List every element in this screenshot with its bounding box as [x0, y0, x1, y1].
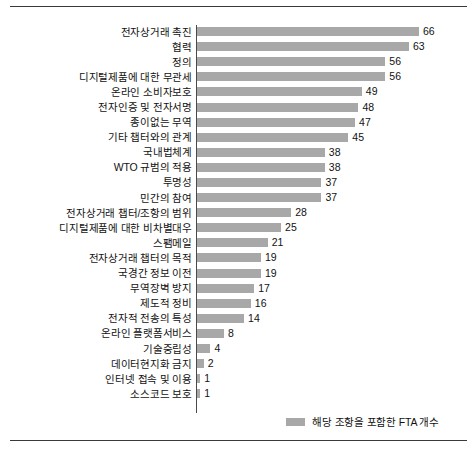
bar: [197, 389, 200, 398]
bar-with-value: 1: [197, 386, 210, 401]
bar-row: 전자인증 및 전자서명48: [0, 99, 475, 114]
bar: [197, 208, 291, 217]
bar-category-label: 기술중립성: [4, 343, 196, 355]
bar-value-label: 14: [248, 313, 260, 324]
bar-with-value: 8: [197, 326, 234, 341]
bar-row: 디지털제품에 대한 무관세56: [0, 69, 475, 84]
bar-row: 스팸메일21: [0, 235, 475, 250]
bar-value-label: 66: [423, 26, 435, 37]
bar-row: 종이없는 무역47: [0, 115, 475, 130]
bar-value-label: 45: [352, 132, 364, 143]
bar-value-label: 1: [204, 373, 210, 384]
bar-value-label: 63: [413, 41, 425, 52]
bar-rows-container: 전자상거래 촉진66협력63정의56디지털제품에 대한 무관세56온라인 소비자…: [0, 24, 475, 401]
bar-value-label: 28: [295, 207, 307, 218]
bar-value-label: 4: [214, 343, 220, 354]
bar-value-label: 49: [366, 86, 378, 97]
bar: [197, 299, 251, 308]
bar-row: 정의56: [0, 54, 475, 69]
bar-with-value: 49: [197, 84, 378, 99]
bar-value-label: 37: [325, 192, 337, 203]
bar: [197, 284, 254, 293]
bar-with-value: 19: [197, 266, 277, 281]
bar-with-value: 17: [197, 281, 270, 296]
bar-row: 디지털제품에 대한 비차별대우25: [0, 220, 475, 235]
bar: [197, 57, 385, 66]
bar: [197, 133, 348, 142]
bar-row: 전자상거래 챕터/조항의 범위28: [0, 205, 475, 220]
top-divider-rule: [10, 6, 467, 7]
bar: [197, 118, 355, 127]
bar: [197, 374, 200, 383]
bar-category-label: 정의: [4, 56, 196, 68]
bar-with-value: 48: [197, 99, 374, 114]
bar-row: 기술중립성4: [0, 341, 475, 356]
bar-with-value: 21: [197, 235, 283, 250]
bar: [197, 163, 325, 172]
bar-row: 소스코드 보호1: [0, 386, 475, 401]
bar-row: 협력63: [0, 39, 475, 54]
bar-with-value: 47: [197, 115, 371, 130]
bar-category-label: 전자인증 및 전자서명: [4, 101, 196, 113]
bar-row: 전자적 전송의 특성14: [0, 311, 475, 326]
bar-category-label: 디지털제품에 대한 무관세: [4, 71, 196, 83]
bar: [197, 253, 261, 262]
bar-with-value: 37: [197, 190, 337, 205]
bar-category-label: 스팸메일: [4, 237, 196, 249]
bar-with-value: 16: [197, 296, 267, 311]
bar-with-value: 37: [197, 175, 337, 190]
bar-category-label: WTO 규범의 적용: [4, 161, 196, 173]
bar-with-value: 28: [197, 205, 307, 220]
bar-category-label: 국내법체계: [4, 146, 196, 158]
bar-with-value: 25: [197, 220, 297, 235]
bar-value-label: 19: [265, 268, 277, 279]
bar-with-value: 14: [197, 311, 260, 326]
bar-with-value: 56: [197, 54, 401, 69]
bar-value-label: 21: [272, 237, 284, 248]
bar-category-label: 기타 챕터와의 관계: [4, 131, 196, 143]
bar: [197, 103, 358, 112]
bar-category-label: 디지털제품에 대한 비차별대우: [4, 222, 196, 234]
bar-category-label: 소스코드 보호: [4, 388, 196, 400]
bar: [197, 269, 261, 278]
bar-row: 제도적 정비16: [0, 296, 475, 311]
bar-row: 인터넷 접속 및 이용1: [0, 371, 475, 386]
bar-category-label: 전자적 전송의 특성: [4, 312, 196, 324]
bar-category-label: 전자상거래 촉진: [4, 26, 196, 38]
bar: [197, 72, 385, 81]
bar-value-label: 37: [325, 177, 337, 188]
legend-swatch-icon: [286, 418, 305, 426]
bar-category-label: 국경간 정보 이전: [4, 267, 196, 279]
bar: [197, 238, 268, 247]
bar-value-label: 25: [285, 222, 297, 233]
bar-category-label: 협력: [4, 41, 196, 53]
bar-row: 국경간 정보 이전19: [0, 266, 475, 281]
bar-value-label: 47: [359, 117, 371, 128]
bar: [197, 87, 362, 96]
bar-row: 민간의 참여37: [0, 190, 475, 205]
bar-category-label: 온라인 플랫폼서비스: [4, 327, 196, 339]
bar: [197, 193, 321, 202]
bar-category-label: 전자상거래 챕터/조항의 범위: [4, 207, 196, 219]
bar: [197, 42, 409, 51]
bar-category-label: 데이터현지화 금지: [4, 358, 196, 370]
bar-row: 전자상거래 챕터의 목적19: [0, 250, 475, 265]
bar-with-value: 1: [197, 371, 210, 386]
bar-with-value: 38: [197, 145, 341, 160]
bar-category-label: 종이없는 무역: [4, 116, 196, 128]
bar-row: WTO 규범의 적용38: [0, 160, 475, 175]
bar-category-label: 인터넷 접속 및 이용: [4, 373, 196, 385]
bar-value-label: 16: [255, 298, 267, 309]
bar-value-label: 56: [389, 56, 401, 67]
bar-value-label: 2: [208, 358, 214, 369]
chart-figure: 전자상거래 촉진66협력63정의56디지털제품에 대한 무관세56온라인 소비자…: [0, 0, 475, 452]
bar-row: 데이터현지화 금지2: [0, 356, 475, 371]
bar-value-label: 38: [329, 147, 341, 158]
bar-value-label: 1: [204, 388, 210, 399]
bottom-divider-rule: [10, 440, 467, 441]
bar: [197, 344, 210, 353]
bar-category-label: 투명성: [4, 176, 196, 188]
bar-with-value: 4: [197, 341, 220, 356]
bar-with-value: 66: [197, 24, 435, 39]
chart-legend: 해당 조항을 포함한 FTA 개수: [0, 414, 475, 429]
